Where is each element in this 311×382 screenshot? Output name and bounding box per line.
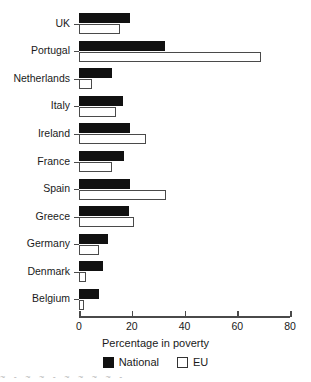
chart-legend: National EU	[0, 356, 311, 368]
bar-national-denmark	[79, 261, 103, 271]
bar-group	[79, 10, 290, 38]
x-axis-tick	[290, 311, 292, 317]
plot-area: UKPortugalNetherlandsItalyIrelandFranceS…	[79, 10, 290, 313]
x-axis-tick	[79, 311, 81, 317]
bar-eu-france	[79, 162, 112, 172]
bar-group	[79, 203, 290, 231]
poverty-bar-chart: UKPortugalNetherlandsItalyIrelandFranceS…	[0, 0, 311, 382]
x-axis-tick	[132, 311, 134, 317]
bar-eu-netherlands	[79, 79, 92, 89]
bar-national-uk	[79, 13, 130, 23]
x-axis-tick-label: 40	[170, 320, 200, 332]
bar-eu-spain	[79, 190, 166, 200]
bar-eu-denmark	[79, 272, 86, 282]
bar-eu-germany	[79, 245, 99, 255]
y-axis-tick	[74, 24, 79, 25]
bar-national-germany	[79, 234, 108, 244]
y-axis-tick	[74, 272, 79, 273]
bar-group	[79, 258, 290, 286]
y-axis-label-france: France	[37, 156, 70, 167]
bar-group	[79, 38, 290, 66]
y-axis-label-ireland: Ireland	[38, 128, 70, 139]
bar-eu-uk	[79, 24, 120, 34]
y-axis-label-denmark: Denmark	[27, 266, 70, 277]
y-axis-tick	[74, 217, 79, 218]
y-axis-label-belgium: Belgium	[32, 293, 70, 304]
y-axis-tick	[74, 79, 79, 80]
x-axis-tick-label: 80	[275, 320, 305, 332]
bar-national-portugal	[79, 41, 165, 51]
bar-national-italy	[79, 96, 123, 106]
y-axis-tick	[74, 244, 79, 245]
bar-eu-greece	[79, 217, 134, 227]
bar-eu-belgium	[79, 300, 84, 310]
y-axis-tick	[74, 299, 79, 300]
legend-label-national: National	[119, 356, 159, 368]
bar-group	[79, 65, 290, 93]
y-axis-label-portugal: Portugal	[31, 45, 70, 56]
legend-item-national: National	[103, 356, 159, 368]
y-axis-label-spain: Spain	[43, 183, 70, 194]
bar-eu-portugal	[79, 52, 261, 62]
scan-artifact: ~ - ~ ~ - ~ ~ ~ ~ -	[0, 376, 311, 382]
x-axis-tick	[185, 311, 187, 317]
bar-national-greece	[79, 206, 129, 216]
bar-eu-italy	[79, 107, 116, 117]
bar-group	[79, 230, 290, 258]
x-axis-tick-label: 20	[117, 320, 147, 332]
bar-group	[79, 175, 290, 203]
scan-artifact-text: ~ - ~ ~ - ~ ~ ~ ~ -	[0, 376, 125, 382]
x-axis-tick-label: 60	[222, 320, 252, 332]
y-axis-label-germany: Germany	[27, 238, 70, 249]
bar-group	[79, 93, 290, 121]
y-axis-tick	[74, 51, 79, 52]
y-axis-tick	[74, 189, 79, 190]
filled-square-icon	[103, 357, 114, 368]
y-axis-tick	[74, 134, 79, 135]
y-axis-label-netherlands: Netherlands	[13, 73, 70, 84]
y-axis-label-greece: Greece	[36, 211, 70, 222]
y-axis-label-uk: UK	[55, 18, 70, 29]
x-axis-title: Percentage in poverty	[0, 337, 311, 349]
bar-national-ireland	[79, 123, 130, 133]
hollow-square-icon	[177, 357, 188, 368]
bar-group	[79, 148, 290, 176]
x-axis-tick-label: 0	[64, 320, 94, 332]
bar-national-france	[79, 151, 124, 161]
x-axis-tick	[237, 311, 239, 317]
y-axis-tick	[74, 106, 79, 107]
bar-national-belgium	[79, 289, 99, 299]
bar-group	[79, 120, 290, 148]
bar-national-netherlands	[79, 68, 112, 78]
legend-label-eu: EU	[193, 356, 208, 368]
y-axis-tick	[74, 162, 79, 163]
bar-eu-ireland	[79, 134, 146, 144]
legend-item-eu: EU	[177, 356, 208, 368]
y-axis-label-italy: Italy	[51, 100, 70, 111]
bar-group	[79, 285, 290, 313]
bar-national-spain	[79, 179, 130, 189]
